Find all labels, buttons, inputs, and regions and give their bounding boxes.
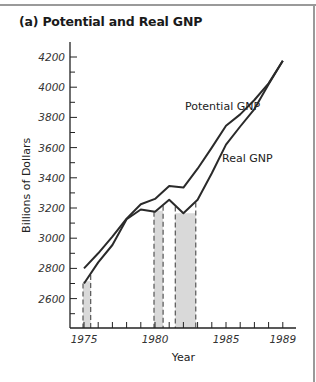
y-tick-label: 2800 [38,262,65,274]
potential-gnp-label: Potential GNP [185,100,260,113]
x-axis-title: Year [171,351,196,364]
y-tick-label: 3200 [38,202,65,214]
y-tick-label: 3000 [38,232,65,244]
y-tick-label: 4000 [38,81,65,93]
x-tick-label: 1985 [213,333,240,345]
y-tick-label: 3800 [38,111,65,123]
y-tick-label: 3400 [38,172,65,184]
y-axis-title: Billions of Dollars [20,138,33,233]
x-tick-label: 1980 [142,333,169,345]
x-tick-label: 1989 [269,333,296,345]
chart-plot: 2600280030003200340036003800400042001975… [0,0,316,382]
y-tick-label: 4200 [38,51,65,63]
recession-bands [83,202,196,328]
real-gnp-label: Real GNP [222,152,273,165]
recession-band [154,211,163,328]
x-tick-label: 1975 [71,333,98,345]
recession-band [175,213,195,328]
y-tick-label: 2600 [38,293,65,305]
y-tick-label: 3600 [38,142,65,154]
recession-band [83,281,91,328]
